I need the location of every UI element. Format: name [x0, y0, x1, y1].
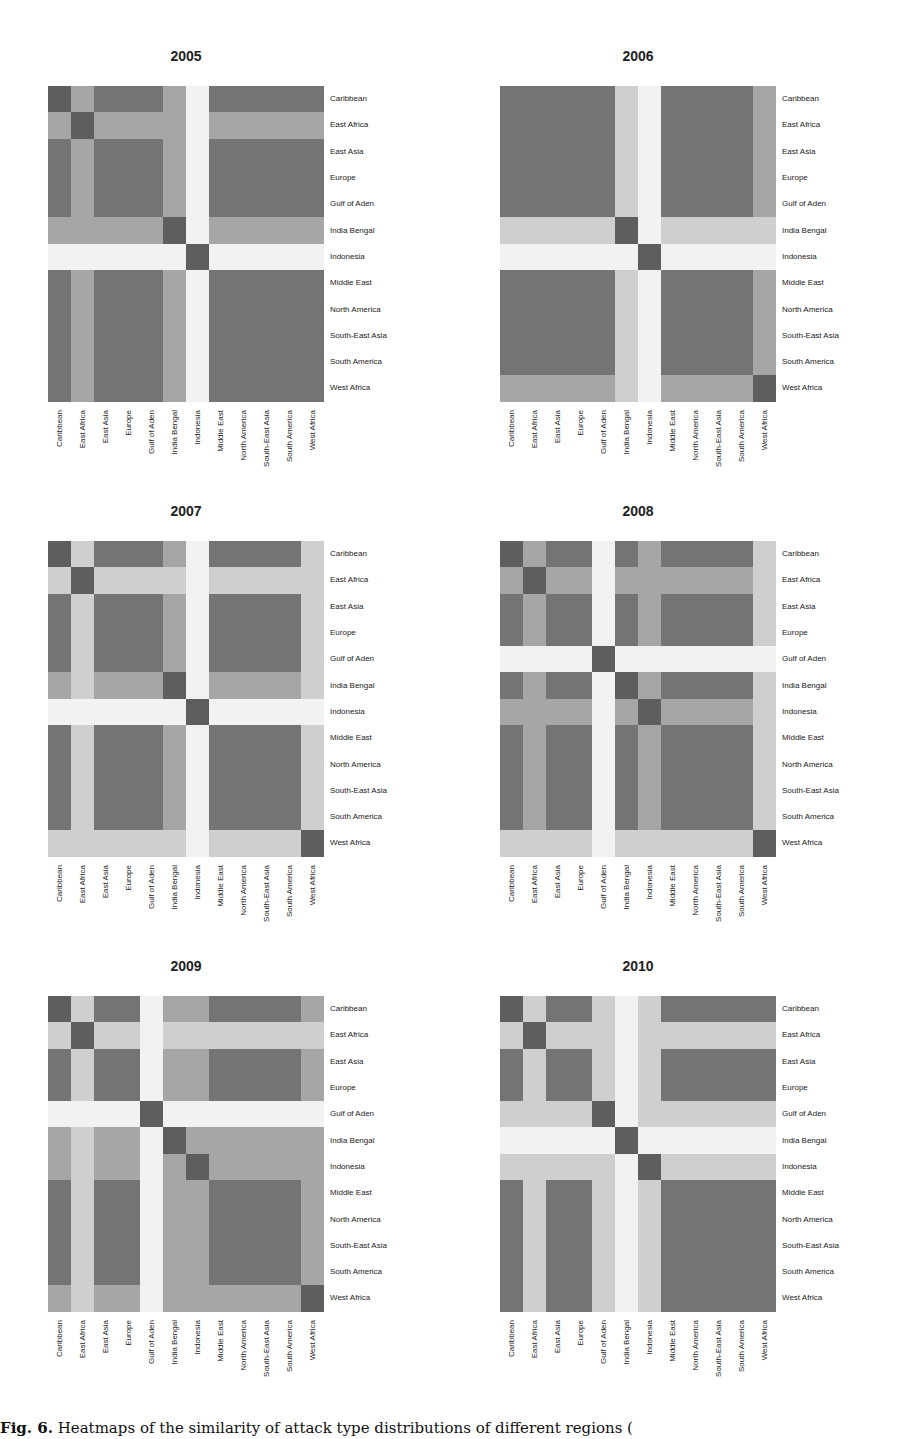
heatmap-cell [615, 86, 638, 112]
heatmap-cell [707, 296, 730, 322]
heatmap-cell [569, 672, 592, 698]
row-label: North America [782, 760, 833, 770]
heatmap-cell [592, 646, 615, 672]
heatmap-cell [569, 191, 592, 217]
column-label: Europe [124, 865, 134, 929]
heatmap-cell [523, 1233, 546, 1259]
heatmap-cell [48, 1180, 71, 1206]
heatmap-cell [163, 541, 186, 567]
row-label: Gulf of Aden [782, 654, 826, 664]
heatmap-cell [71, 751, 94, 777]
heatmap-cell [71, 830, 94, 856]
heatmap-cell [638, 217, 661, 243]
heatmap-cell [638, 165, 661, 191]
heatmap-cell [117, 1180, 140, 1206]
heatmap-cell [523, 541, 546, 567]
heatmap-cell [255, 830, 278, 856]
heatmap-cell [661, 646, 684, 672]
heatmap-cell [232, 1180, 255, 1206]
heatmap-cell [546, 165, 569, 191]
heatmap-cell [638, 1180, 661, 1206]
heatmap-cell [117, 323, 140, 349]
column-label: Gulf of Aden [147, 410, 157, 474]
row-label: Middle East [782, 733, 824, 743]
heatmap-cell [301, 165, 324, 191]
row-label: Indonesia [782, 1162, 817, 1172]
column-label: India Bengal [622, 410, 632, 474]
heatmap-cell [117, 349, 140, 375]
heatmap-cell [753, 725, 776, 751]
heatmap-cell [163, 349, 186, 375]
heatmap-cell [707, 1049, 730, 1075]
heatmap-cell [163, 217, 186, 243]
column-label: Europe [124, 1320, 134, 1384]
heatmap-cell [301, 567, 324, 593]
heatmap-cell [661, 375, 684, 401]
heatmap-cell [684, 86, 707, 112]
row-label: Indonesia [782, 252, 817, 262]
heatmap-cell [209, 1180, 232, 1206]
heatmap-cell [592, 217, 615, 243]
heatmap-cell [278, 112, 301, 138]
heatmap-cell [500, 112, 523, 138]
heatmap-cell [301, 375, 324, 401]
heatmap-cell [209, 86, 232, 112]
heatmap-cell [301, 1206, 324, 1232]
row-label: East Asia [782, 1057, 815, 1067]
heatmap-cell [94, 996, 117, 1022]
heatmap-cell [278, 725, 301, 751]
heatmap-cell [48, 594, 71, 620]
heatmap-cell [592, 541, 615, 567]
heatmap-cell [232, 1049, 255, 1075]
heatmap-cell [569, 270, 592, 296]
heatmap-cell [186, 699, 209, 725]
heatmap-cell [730, 139, 753, 165]
heatmap-cell [753, 541, 776, 567]
heatmap-cell [523, 620, 546, 646]
heatmap-cell [94, 217, 117, 243]
heatmap-cell [500, 191, 523, 217]
heatmap-cell [140, 1233, 163, 1259]
column-label: North America [239, 1320, 249, 1384]
heatmap-cell [730, 1101, 753, 1127]
column-label: West Africa [760, 1320, 770, 1384]
heatmap-cell [186, 1022, 209, 1048]
heatmap-cell [163, 112, 186, 138]
heatmap-cell [730, 541, 753, 567]
heatmap-cell [753, 804, 776, 830]
heatmap-cell [500, 996, 523, 1022]
heatmap-cell [684, 349, 707, 375]
heatmap-cell [278, 270, 301, 296]
heatmap-cell [301, 323, 324, 349]
heatmap-cell [615, 1075, 638, 1101]
heatmap-cell [707, 1154, 730, 1180]
heatmap-cell [232, 567, 255, 593]
heatmap-cell [232, 139, 255, 165]
heatmap-cell [661, 1206, 684, 1232]
heatmap-cell [140, 699, 163, 725]
heatmap-cell [48, 830, 71, 856]
heatmap-cell [48, 1022, 71, 1048]
heatmap-cell [48, 751, 71, 777]
heatmap-cell [523, 244, 546, 270]
heatmap-cell [71, 296, 94, 322]
heatmap-cell [546, 244, 569, 270]
heatmap-cell [301, 1285, 324, 1311]
heatmap-cell [209, 244, 232, 270]
heatmap-cell [638, 541, 661, 567]
heatmap-cell [140, 244, 163, 270]
heatmap-cell [615, 244, 638, 270]
heatmap-cell [278, 191, 301, 217]
heatmap-cell [209, 375, 232, 401]
heatmap-cell [71, 1101, 94, 1127]
heatmap-cell [638, 323, 661, 349]
heatmap-cell [278, 1075, 301, 1101]
heatmap-cell [684, 375, 707, 401]
heatmap-cell [730, 699, 753, 725]
heatmap-cell [638, 1101, 661, 1127]
heatmap-cell [186, 646, 209, 672]
row-label: Indonesia [330, 707, 365, 717]
heatmap-cell [661, 244, 684, 270]
column-label: East Asia [553, 410, 563, 474]
heatmap-cell [48, 296, 71, 322]
